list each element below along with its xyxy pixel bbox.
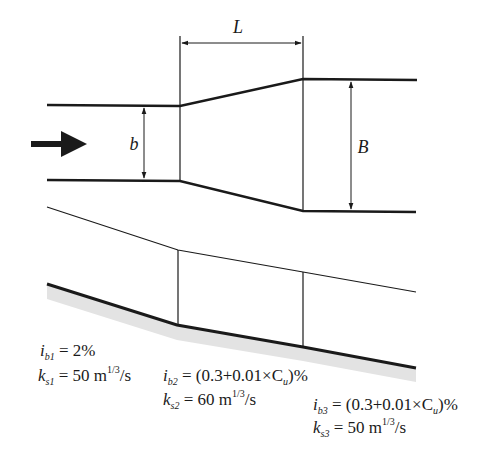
roughness-2-label: ks2 = 60 m1/3/s — [163, 388, 256, 411]
wide-width-label: B — [358, 137, 369, 157]
channel-expansion-diagram: L b B ib1 = 2% ks1 = 50 m1/3/s — [0, 0, 486, 460]
slope-3-label: ib3 = (0.3+0.01×Cu)% — [313, 395, 458, 416]
slope-2-label: ib2 = (0.3+0.01×Cu)% — [163, 366, 308, 387]
roughness-3-label: ks3 = 50 m1/3/s — [313, 416, 406, 439]
reach-2-parameters: ib2 = (0.3+0.01×Cu)% ks2 = 60 m1/3/s — [163, 366, 308, 411]
roughness-1-label: ks1 = 50 m1/3/s — [38, 364, 131, 387]
arrow-right-icon — [31, 131, 87, 157]
length-label: L — [232, 17, 243, 37]
slope-1-label: ib1 = 2% — [40, 341, 95, 362]
profile-view: ib1 = 2% ks1 = 50 m1/3/s ib2 = (0.3+0.01… — [38, 207, 458, 439]
reach-1-parameters: ib1 = 2% ks1 = 50 m1/3/s — [38, 341, 131, 387]
upper-bank — [47, 79, 417, 106]
plan-view: L b B — [31, 17, 417, 212]
reach-3-parameters: ib3 = (0.3+0.01×Cu)% ks3 = 50 m1/3/s — [313, 395, 458, 439]
water-surface-line — [47, 207, 416, 292]
channel-bed-line — [47, 284, 416, 368]
narrow-width-label: b — [130, 134, 139, 154]
lower-bank — [47, 180, 416, 212]
